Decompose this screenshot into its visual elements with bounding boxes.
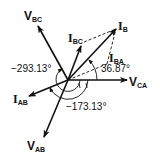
label-v-bc: VBC (24, 10, 42, 23)
angle-label-173: −173.13° (66, 102, 106, 112)
arc-tick (79, 83, 80, 88)
vector-i-bc (68, 46, 81, 80)
label-i-ab: IAB (13, 93, 28, 106)
label-v-ca: VCA (129, 76, 147, 89)
label-v-ab: VAB (27, 140, 45, 153)
angle-label-36: 36.87° (101, 64, 130, 74)
label-i-b: IB (118, 20, 128, 33)
phasor-diagram: VBC IBC IB IBA VCA IAB VAB 36.87° −293.1… (0, 0, 160, 163)
construction-line-bc (84, 29, 116, 42)
angle-arc-173 (50, 80, 88, 99)
label-i-bc: IBC (68, 32, 83, 45)
angle-label-293: −293.13° (11, 64, 51, 74)
